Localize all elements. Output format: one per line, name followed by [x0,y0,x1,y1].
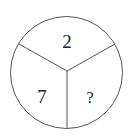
divider-right [67,44,115,71]
circle-puzzle-diagram: 2 7 ? [0,0,131,139]
sector-bottom-left-value: 7 [37,86,47,107]
divider-left [19,44,67,71]
sector-bottom-right-value: ? [86,89,93,106]
sector-top-value: 2 [62,31,72,52]
